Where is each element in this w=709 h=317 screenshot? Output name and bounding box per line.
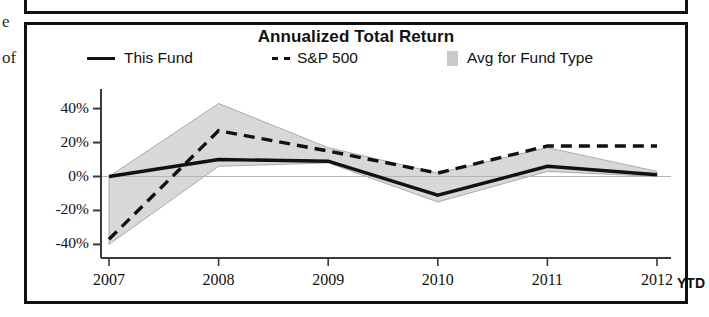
x-axis-tick-label: 2011 <box>512 271 582 289</box>
y-axis-tick-label: -40% <box>31 234 89 252</box>
x-axis-tick-label: 2009 <box>293 271 363 289</box>
chart-figure: Annualized Total Return This Fund S&P 50… <box>24 22 688 304</box>
x-axis-tick-label: 2010 <box>403 271 473 289</box>
adjacent-box-bottom-edge <box>24 0 688 14</box>
chart-plot-svg <box>27 25 691 307</box>
y-axis-tick-label: 40% <box>31 99 89 117</box>
y-axis-tick-label: 0% <box>31 167 89 185</box>
x-axis-tick-label: 2007 <box>74 271 144 289</box>
margin-text-fragment-1: e <box>2 12 10 32</box>
y-axis-tick-label: 20% <box>31 133 89 151</box>
margin-text-fragment-2: of <box>2 48 16 68</box>
y-axis-tick-label: -20% <box>31 200 89 218</box>
x-axis-ytd-label: YTD <box>677 275 705 291</box>
plot-area: 40%20%0%-20%-40% 20072008200920102011201… <box>27 25 685 301</box>
x-axis-tick-label: 2008 <box>184 271 254 289</box>
